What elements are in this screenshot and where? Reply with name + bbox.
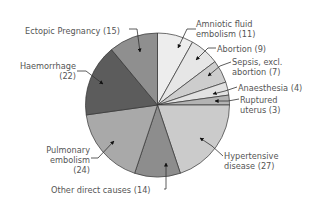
label-amniotic: Amniotic fluid embolism (11) [196, 19, 255, 39]
label-ectopic: Ectopic Pregnancy (15) [25, 26, 120, 36]
label-haemorrhage: Haemorrhage (22) [16, 61, 76, 81]
label-haemorrhage-line2: (22) [16, 71, 76, 81]
label-pulmonary-line3: (24) [20, 165, 90, 175]
label-sepsis-line2: abortion (7) [232, 67, 282, 77]
label-amniotic-line2: embolism (11) [196, 29, 255, 39]
label-pulmonary: Pulmonary embolism (24) [20, 145, 90, 175]
label-other-direct: Other direct causes (14) [51, 185, 151, 195]
label-haemorrhage-line1: Haemorrhage [16, 61, 76, 71]
label-pulmonary-line1: Pulmonary [20, 145, 90, 155]
label-hypertensive: Hypertensive disease (27) [224, 151, 278, 171]
label-amniotic-line1: Amniotic fluid [196, 19, 255, 29]
label-abortion: Abortion (9) [217, 44, 266, 54]
label-ruptured-line2: uterus (3) [240, 105, 280, 115]
label-ruptured: Ruptured uterus (3) [240, 95, 280, 115]
label-pulmonary-line2: embolism [20, 155, 90, 165]
pie-slices [86, 33, 230, 177]
label-sepsis: Sepsis, excl. abortion (7) [232, 57, 282, 77]
label-sepsis-line1: Sepsis, excl. [232, 57, 282, 67]
label-hypertensive-line2: disease (27) [224, 161, 278, 171]
label-anaesthesia: Anaesthesia (4) [238, 83, 302, 93]
label-ruptured-line1: Ruptured [240, 95, 280, 105]
label-hypertensive-line1: Hypertensive [224, 151, 278, 161]
